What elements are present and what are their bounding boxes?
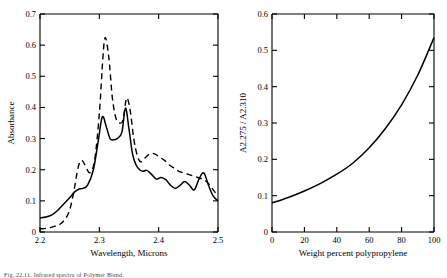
left-chart-panel: 00.10.20.30.40.50.60.72.22.32.42.5Wavele… (0, 0, 230, 278)
svg-text:0.5: 0.5 (257, 45, 268, 55)
svg-text:2.2: 2.2 (35, 235, 46, 245)
left-chart-svg: 00.10.20.30.40.50.60.72.22.32.42.5Wavele… (0, 0, 230, 278)
svg-text:Wavelength, Microns: Wavelength, Microns (90, 248, 168, 258)
svg-text:100: 100 (428, 235, 441, 245)
right-chart-svg: 00.10.20.30.40.50.6020406080100Weight pe… (230, 0, 447, 278)
svg-text:Weight percent polypropylene: Weight percent polypropylene (299, 248, 408, 258)
svg-text:40: 40 (333, 235, 342, 245)
svg-text:80: 80 (397, 235, 406, 245)
svg-text:2.5: 2.5 (213, 235, 224, 245)
svg-text:0: 0 (270, 235, 274, 245)
right-chart-panel: 00.10.20.30.40.50.6020406080100Weight pe… (230, 0, 447, 278)
svg-text:0.2: 0.2 (25, 165, 36, 175)
svg-text:2.4: 2.4 (153, 235, 164, 245)
figure-caption: Fig. 22.11. Infrared spectra of Polymer … (4, 272, 124, 278)
svg-text:0.1: 0.1 (257, 191, 268, 201)
svg-text:0.7: 0.7 (25, 9, 36, 19)
svg-text:0.5: 0.5 (25, 71, 36, 81)
svg-text:2.3: 2.3 (94, 235, 105, 245)
svg-text:20: 20 (300, 235, 309, 245)
svg-text:A2.275 / A2.310: A2.275 / A2.310 (238, 93, 248, 154)
svg-text:0.3: 0.3 (25, 134, 36, 144)
svg-text:0.3: 0.3 (257, 118, 268, 128)
svg-text:0.4: 0.4 (257, 82, 268, 92)
svg-text:0.1: 0.1 (25, 196, 36, 206)
svg-text:60: 60 (365, 235, 374, 245)
svg-text:0.6: 0.6 (257, 9, 268, 19)
svg-text:Absorbance: Absorbance (6, 102, 16, 145)
svg-text:0.2: 0.2 (257, 154, 268, 164)
svg-text:0.4: 0.4 (25, 102, 36, 112)
svg-text:0.6: 0.6 (25, 40, 36, 50)
svg-text:0: 0 (264, 227, 268, 237)
